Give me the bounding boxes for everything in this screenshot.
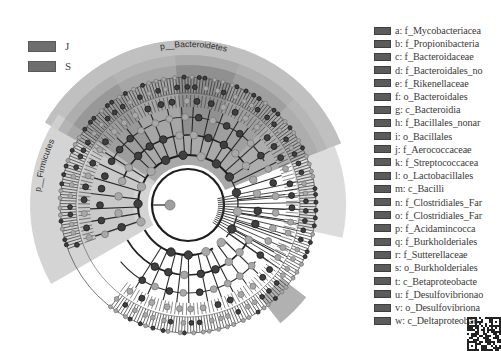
taxon-node (137, 218, 145, 226)
taxon-node (197, 320, 202, 325)
taxon-node (231, 150, 239, 158)
legend-label: v: o_Desulfovibriona (395, 302, 480, 313)
taxon-node (60, 182, 64, 186)
taxon-node (314, 200, 318, 204)
taxon-node (289, 146, 294, 151)
taxon-node (66, 159, 70, 163)
taxon-node (252, 300, 257, 305)
taxon-node (71, 174, 76, 179)
legend-label: d: f_Bacteroidales_no (395, 65, 483, 76)
legend-swatch (374, 238, 391, 246)
taxon-node (210, 286, 217, 293)
taxon-node (235, 85, 239, 89)
taxon-node (141, 83, 145, 87)
taxon-node (121, 120, 127, 126)
taxon-node (265, 238, 272, 245)
taxon-node (304, 199, 309, 204)
taxon-node (139, 295, 145, 301)
taxon-node (241, 318, 245, 322)
legend-label: c: f_Bacteroidaceae (395, 51, 474, 62)
taxon-node (249, 103, 254, 108)
taxon-node (202, 247, 210, 255)
legend-label: h: f_Bacillales_nonar (395, 117, 480, 128)
taxon-node (63, 238, 67, 242)
taxon-node (292, 131, 296, 135)
taxon-node (257, 152, 264, 159)
taxon-node (162, 318, 167, 323)
legend-item-q: q: f_Burkholderiales (374, 235, 483, 248)
taxon-node (132, 112, 138, 118)
taxon-node (64, 243, 68, 247)
taxon-node (257, 252, 264, 259)
taxon-node (225, 258, 233, 266)
taxon-node (102, 231, 109, 238)
taxon-node (253, 190, 261, 198)
legend-swatch (374, 93, 391, 101)
taxon-node (197, 76, 201, 80)
taxon-node (291, 257, 296, 262)
taxon-node (232, 109, 238, 115)
legend-swatch (374, 277, 391, 285)
taxon-node (75, 242, 80, 247)
taxon-node (128, 317, 132, 321)
taxon-node (303, 209, 308, 214)
taxon-node (272, 108, 276, 112)
taxon-node (275, 255, 281, 261)
taxon-node (139, 277, 146, 284)
taxon-node (58, 196, 62, 200)
taxon-node (71, 230, 76, 235)
taxon-node (112, 110, 117, 115)
taxon-node (277, 128, 282, 133)
taxon-node (227, 297, 233, 303)
taxon-node (118, 223, 126, 231)
legend-item-r: r: f_Sutterellaceae (374, 248, 483, 261)
taxon-node (114, 297, 119, 302)
taxon-node (307, 162, 311, 166)
group-legend-item-j: J (28, 36, 71, 56)
taxon-node (205, 134, 213, 142)
taxon-node (190, 75, 194, 79)
root-node (165, 200, 175, 210)
taxon-node (311, 232, 315, 236)
taxon-node (297, 139, 301, 143)
legend-swatch (374, 172, 391, 180)
taxon-node (272, 122, 277, 127)
taxon-node (203, 76, 207, 80)
taxon-node (164, 304, 170, 310)
taxon-node (296, 161, 301, 166)
taxon-node (285, 266, 290, 271)
taxon-node (179, 151, 187, 159)
taxon-node (81, 197, 87, 203)
taxon-node (313, 187, 317, 191)
taxon-node (163, 87, 168, 92)
legend-swatch (374, 145, 391, 153)
taxon-node (248, 262, 255, 269)
taxon-node (184, 98, 190, 104)
taxon-node (60, 227, 64, 231)
legend-item-n: n: f_Clostridiales_Far (374, 195, 483, 208)
taxon-node (223, 123, 230, 130)
taxon-node (217, 238, 225, 246)
taxon-node (159, 136, 167, 144)
taxon-node (300, 262, 304, 266)
legend-item-l: l: o_Lactobacillales (374, 169, 483, 182)
taxon-node (260, 274, 266, 280)
legend-swatch (374, 119, 391, 127)
taxon-node (220, 141, 228, 149)
taxon-node (313, 216, 317, 220)
taxon-node (137, 183, 145, 191)
taxon-node (182, 331, 186, 335)
taxon-node (131, 87, 135, 91)
taxon-node (267, 288, 272, 293)
taxon-node (291, 276, 295, 280)
taxon-node (181, 271, 189, 279)
legend-item-c: c: f_Bacteroidaceae (374, 50, 483, 63)
taxon-node (302, 181, 307, 186)
legend-label: s: o_Burkholderiales (395, 262, 478, 273)
taxon-node (115, 209, 123, 217)
taxon-node (151, 326, 155, 330)
taxon-node (64, 164, 68, 168)
taxon-node (283, 120, 287, 124)
taxon-node (149, 299, 155, 305)
taxon-node (177, 306, 183, 312)
